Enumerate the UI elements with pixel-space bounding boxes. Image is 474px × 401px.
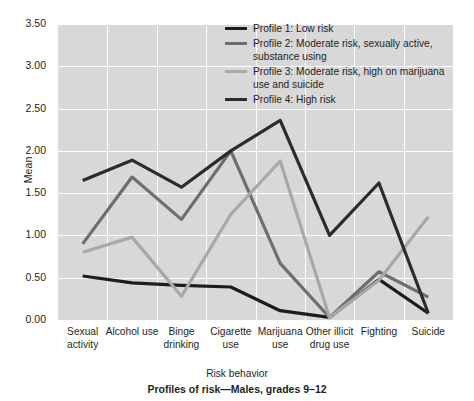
- y-axis-tick-label: 1.00: [10, 228, 46, 240]
- legend-item[interactable]: Profile 3: Moderate risk, high on mariju…: [225, 65, 457, 91]
- chart-figure: Mean 0.000.501.001.502.002.503.003.50 Se…: [0, 0, 474, 401]
- legend-item[interactable]: Profile 2: Moderate risk, sexually activ…: [225, 37, 457, 63]
- y-axis-tick-label: 3.00: [10, 59, 46, 71]
- y-axis-tick-label: 2.50: [10, 102, 46, 114]
- y-axis-tick-label: 2.00: [10, 144, 46, 156]
- y-axis-tick-label: 0.00: [10, 313, 46, 325]
- gridline-horizontal: [58, 320, 453, 321]
- x-axis-title: Risk behavior: [0, 368, 474, 379]
- y-axis-tick-label: 1.50: [10, 186, 46, 198]
- x-axis-tick-label: Suicide: [398, 326, 458, 339]
- legend-item[interactable]: Profile 1: Low risk: [225, 22, 457, 35]
- legend-item-label: Profile 2: Moderate risk, sexually activ…: [253, 37, 457, 63]
- legend-line-swatch: [225, 98, 247, 101]
- y-axis-tick-label: 3.50: [10, 17, 46, 29]
- legend-line-swatch: [225, 27, 247, 30]
- legend-line-swatch: [225, 70, 247, 73]
- legend-item[interactable]: Profile 4: High risk: [225, 93, 457, 106]
- series-line: [83, 151, 429, 318]
- legend-item-label: Profile 4: High risk: [253, 93, 336, 106]
- legend-item-label: Profile 3: Moderate risk, high on mariju…: [253, 65, 457, 91]
- legend-item-label: Profile 1: Low risk: [253, 22, 333, 35]
- chart-legend: Profile 1: Low riskProfile 2: Moderate r…: [225, 22, 457, 108]
- chart-caption: Profiles of risk—Males, grades 9–12: [0, 383, 474, 395]
- y-axis-tick-label: 0.50: [10, 271, 46, 283]
- legend-line-swatch: [225, 42, 247, 45]
